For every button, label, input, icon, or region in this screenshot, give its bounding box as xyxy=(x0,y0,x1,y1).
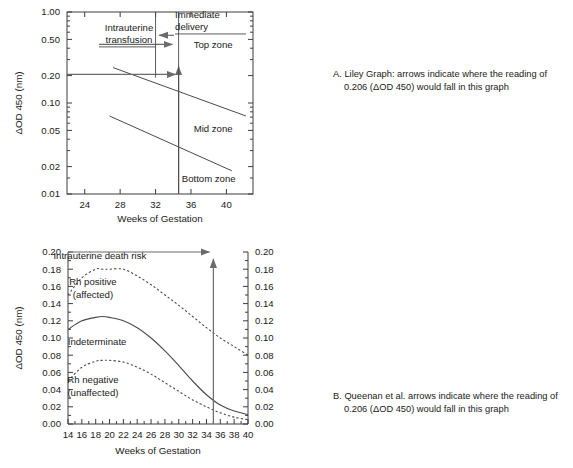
x-tick-label: 30 xyxy=(173,429,184,440)
y-tick-label-right: 0.06 xyxy=(255,367,274,378)
x-tick-label: 24 xyxy=(132,429,143,440)
x-tick-label: 16 xyxy=(77,429,88,440)
y-tick-label: 0.05 xyxy=(41,125,60,136)
x-axis-title: Weeks of Gestation xyxy=(115,445,200,456)
y-tick-label: 0.02 xyxy=(41,161,60,172)
liley-graph-svg: 1.000.500.200.100.050.020.012428323640We… xyxy=(0,0,320,230)
y-tick-label: 0.20 xyxy=(41,70,60,81)
y-tick-label: 0.00 xyxy=(42,418,61,429)
zone-label: Indeterminate xyxy=(68,336,127,347)
x-tick-label: 32 xyxy=(187,429,198,440)
x-tick-label: 24 xyxy=(79,199,90,210)
y-tick-label-right: 0.20 xyxy=(255,246,274,257)
x-tick-label: 40 xyxy=(221,199,232,210)
figure-container: 1.000.500.200.100.050.020.012428323640We… xyxy=(0,0,573,468)
y-tick-label: 0.01 xyxy=(41,188,60,199)
y-axis-title: ΔOD 450 (nm) xyxy=(13,71,24,134)
x-tick-label: 40 xyxy=(243,429,254,440)
annotation-immediate-delivery-line2: delivery xyxy=(175,21,208,32)
x-tick-label: 32 xyxy=(150,199,161,210)
x-tick-label: 36 xyxy=(186,199,197,210)
y-tick-label: 0.50 xyxy=(41,34,60,45)
caption-a: A. Liley Graph: arrows indicate where th… xyxy=(333,68,561,93)
y-tick-label: 0.10 xyxy=(41,97,60,108)
y-tick-label: 0.08 xyxy=(42,350,61,361)
x-tick-label: 20 xyxy=(104,429,115,440)
y-tick-label-right: 0.18 xyxy=(255,264,274,275)
y-tick-label-right: 0.04 xyxy=(255,384,274,395)
y-tick-label-right: 0.16 xyxy=(255,281,274,292)
x-tick-label: 14 xyxy=(63,429,74,440)
x-axis-title: Weeks of Gestation xyxy=(117,213,202,224)
y-tick-label: 0.10 xyxy=(42,332,61,343)
y-tick-label: 0.12 xyxy=(42,315,61,326)
zone-label: (unaffected) xyxy=(67,387,118,398)
y-tick-label: 0.06 xyxy=(42,367,61,378)
y-tick-label-right: 0.00 xyxy=(255,418,274,429)
y-tick-label: 0.04 xyxy=(42,384,61,395)
y-tick-label: 0.02 xyxy=(42,401,61,412)
x-tick-label: 28 xyxy=(115,199,126,210)
annotation-immediate-delivery: Immediate xyxy=(175,9,220,20)
queenan-graph-panel: 0.000.000.020.020.040.040.060.060.080.08… xyxy=(0,238,320,468)
y-tick-label: 1.00 xyxy=(41,6,60,17)
x-tick-label: 34 xyxy=(201,429,212,440)
zone-label: (affected) xyxy=(73,289,113,300)
y-axis-title: ΔOD 450 (nm) xyxy=(13,306,24,369)
zone-label: Bottom zone xyxy=(182,173,236,184)
x-tick-label: 38 xyxy=(229,429,240,440)
zone-curve xyxy=(68,317,248,415)
queenan-plot-area: 0.000.000.020.020.040.040.060.060.080.08… xyxy=(13,246,274,456)
liley-graph-panel: 1.000.500.200.100.050.020.012428323640We… xyxy=(0,0,320,230)
annotation-intrauterine-transfusion: Intrauterine xyxy=(105,22,154,33)
y-tick-label-right: 0.14 xyxy=(255,298,274,309)
y-tick-label: 0.16 xyxy=(42,281,61,292)
zone-label: Rh negative xyxy=(67,374,118,385)
x-tick-label: 18 xyxy=(90,429,101,440)
annotation-intrauterine-transfusion-line2: transfusion xyxy=(106,34,153,45)
zone-label: Mid zone xyxy=(194,123,233,134)
y-tick-label: 0.18 xyxy=(42,264,61,275)
y-tick-label-right: 0.10 xyxy=(255,332,274,343)
caption-a-label: A. xyxy=(333,69,342,79)
y-tick-label-right: 0.08 xyxy=(255,350,274,361)
zone-label: Top zone xyxy=(194,39,233,50)
caption-a-text: Liley Graph: arrows indicate where the r… xyxy=(344,69,547,92)
x-tick-label: 36 xyxy=(215,429,226,440)
queenan-graph-svg: 0.000.000.020.020.040.040.060.060.080.08… xyxy=(0,238,320,468)
x-tick-label: 26 xyxy=(146,429,157,440)
y-tick-label: 0.14 xyxy=(42,298,61,309)
y-tick-label-right: 0.02 xyxy=(255,401,274,412)
caption-b: B. Queenan et al. arrows indicate where … xyxy=(333,390,561,415)
liley-plot-area: 1.000.500.200.100.050.020.012428323640We… xyxy=(13,6,253,224)
y-tick-label-right: 0.12 xyxy=(255,315,274,326)
caption-b-label: B. xyxy=(333,391,342,401)
caption-b-text: Queenan et al. arrows indicate where the… xyxy=(344,391,558,414)
x-tick-label: 28 xyxy=(160,429,171,440)
zone-label: Rh positive xyxy=(69,276,116,287)
x-tick-label: 22 xyxy=(118,429,129,440)
